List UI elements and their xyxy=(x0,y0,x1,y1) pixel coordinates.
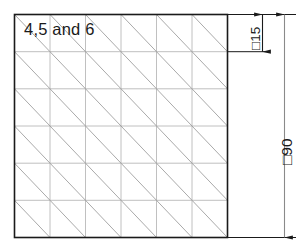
cell-dimension-label: □15 xyxy=(249,27,263,50)
technical-drawing: 4,5 and 6 □15 □90 xyxy=(0,0,304,250)
part-label: 4,5 and 6 xyxy=(24,21,95,38)
overall-dimension-label: □90 xyxy=(279,138,295,165)
